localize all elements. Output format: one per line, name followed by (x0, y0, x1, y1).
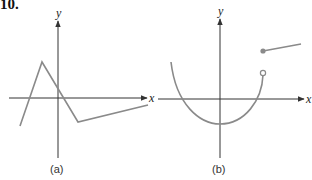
y-axis-label: y (55, 6, 62, 20)
panel-label-a: (a) (50, 163, 63, 175)
filled-dot-endpoint (260, 48, 265, 53)
panel-a: x y (a) (9, 6, 155, 175)
y-axis-label: y (217, 4, 224, 18)
x-axis-label: x (305, 92, 312, 106)
graphs-figure: x y (a) x y (b) (0, 0, 312, 180)
piecewise-linear-curve (20, 62, 148, 126)
parabola-curve (171, 62, 263, 124)
open-circle-endpoint (260, 70, 265, 75)
x-axis-label: x (148, 91, 155, 105)
line-segment (263, 44, 301, 51)
panel-label-b: (b) (212, 163, 225, 175)
panel-b: x y (b) (158, 4, 312, 175)
